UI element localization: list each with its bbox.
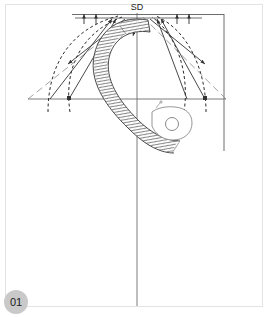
right-long-diagonal	[143, 17, 226, 99]
right-force-vector-crossing	[150, 19, 205, 64]
baseline-foot-left	[67, 96, 71, 100]
sd-label: SD	[131, 2, 144, 12]
page-number-badge: 01	[4, 290, 28, 314]
hook-tail-lead-line	[156, 103, 160, 108]
hook-tail-marker-dot	[160, 101, 162, 103]
hook-tail-group	[152, 101, 192, 140]
right-dashed-curve-outer	[152, 17, 185, 112]
page-canvas: SD 01	[0, 0, 272, 317]
baseline-foot-right	[203, 96, 207, 100]
technical-drawing: SD	[0, 0, 272, 317]
hook-tail-hole	[166, 118, 179, 131]
